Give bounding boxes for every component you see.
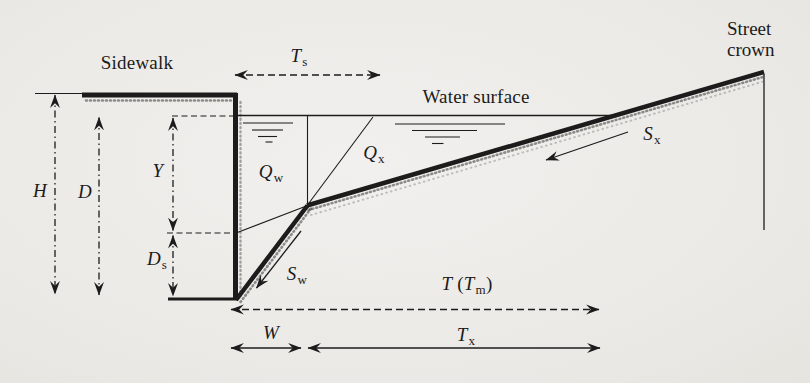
stipple-texture: [86, 77, 765, 303]
qx-label: Qx: [363, 142, 385, 164]
street-crown-line2: crown: [727, 39, 774, 60]
tx-label: Tx: [457, 324, 475, 346]
street-surface-line: [307, 72, 764, 206]
sw-label: Sw: [287, 263, 307, 285]
d-label: D: [78, 181, 92, 203]
t-tm-label: T (Tm): [442, 273, 493, 295]
ts-label: Ts: [290, 45, 307, 67]
water-surface-label: Water surface: [422, 86, 529, 108]
construction-lines: [35, 74, 764, 233]
water-symbol-right: [395, 124, 505, 144]
h-label: H: [33, 180, 47, 202]
sidewalk-label: Sidewalk: [101, 52, 173, 74]
gutter-cross-section-figure: Sidewalk Water surface Streetcrown Ts H …: [0, 0, 810, 383]
water-lines: [238, 116, 612, 144]
qw-label: Qw: [259, 161, 284, 183]
street-crown-line1: Street: [727, 18, 771, 39]
water-symbol-left: [243, 123, 293, 142]
y-label: Y: [153, 160, 164, 182]
ds-label: Ds: [147, 248, 167, 270]
w-label: W: [263, 322, 279, 344]
street-crown-label: Streetcrown: [727, 18, 774, 60]
sx-label: Sx: [643, 123, 660, 145]
